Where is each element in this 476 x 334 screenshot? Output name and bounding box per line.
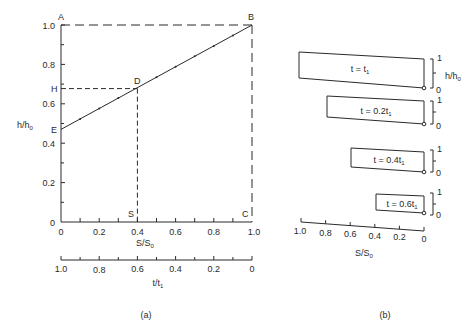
secondary-x-axis-label: t/t1 xyxy=(153,278,165,289)
point-label-d: D xyxy=(134,76,141,86)
profile-end-marker xyxy=(422,170,426,174)
scale-bottom-label: 0 xyxy=(436,168,441,178)
scale-bottom-label: 0 xyxy=(436,210,441,220)
scale-label: h/h0 xyxy=(445,71,462,82)
x-tick-label: 0 xyxy=(58,227,63,237)
panel-b-x-tick-label: 0.2 xyxy=(393,232,406,242)
x-tick-label: 0.4 xyxy=(131,227,144,237)
y-tick-label: 0 xyxy=(50,218,55,228)
profile-end-marker xyxy=(422,122,426,126)
secondary-x-tick-label: 0 xyxy=(249,264,254,274)
y-tick-label: 0.8 xyxy=(42,60,55,70)
scale-top-label: 1 xyxy=(437,187,442,197)
x-tick-label: 0.6 xyxy=(169,227,182,237)
scale-top-label: 1 xyxy=(437,95,442,105)
secondary-x-tick-label: 0.8 xyxy=(93,265,106,275)
x-axis-label: S/S0 xyxy=(136,238,155,249)
y-axis-label: h/h0 xyxy=(17,120,34,131)
x-axis-ticks xyxy=(80,218,233,222)
panel-b-x-tick-label: 0.4 xyxy=(369,231,382,241)
profile-label: t = t1 xyxy=(351,64,370,75)
scale-top-label: 1 xyxy=(437,53,442,63)
point-label-h: H xyxy=(51,84,58,94)
point-label-s: S xyxy=(128,209,134,219)
scale-bracket xyxy=(430,59,436,88)
profile-end-marker xyxy=(422,211,426,215)
profile-label: t = 0.4t1 xyxy=(373,155,405,166)
panel-b-x-tick-label: 1.0 xyxy=(294,226,307,236)
y-tick-label: 1.0 xyxy=(42,21,55,31)
point-label-b: B xyxy=(248,12,254,22)
panel-a xyxy=(61,25,252,260)
panel-b-x-tick-label: 0.8 xyxy=(319,228,332,238)
panel-a-text: 1.0 0.8 0.6 0.4 0.2 0 0 0.2 0.4 0.6 0.8 … xyxy=(17,12,260,320)
point-label-e: E xyxy=(51,125,57,135)
panel-b-text: t = t1 t = 0.2t1 t = 0.4t1 t = 0.6t1 1 0… xyxy=(294,53,462,320)
profile-end-marker xyxy=(422,86,426,90)
secondary-x-tick-label: 0.2 xyxy=(208,264,221,274)
scale-bottom-label: 0 xyxy=(436,121,441,131)
panel-b-x-axis-label: S/S0 xyxy=(355,248,374,259)
secondary-x-tick-label: 0.6 xyxy=(131,264,144,274)
secondary-x-tick-label: 0.4 xyxy=(169,264,182,274)
x-tick-label: 0.2 xyxy=(93,227,106,237)
y-tick-label: 0.6 xyxy=(42,99,55,109)
panel-b-x-tick-label: 0.6 xyxy=(344,229,357,239)
secondary-x-axis-ticks xyxy=(61,256,252,260)
y-axis-ticks xyxy=(61,25,65,202)
panel-b-caption: (b) xyxy=(380,310,391,320)
figure-canvas: 1.0 0.8 0.6 0.4 0.2 0 0 0.2 0.4 0.6 0.8 … xyxy=(0,0,476,334)
point-label-a: A xyxy=(58,12,64,22)
profile-label: t = 0.2t1 xyxy=(360,106,392,117)
point-label-c: C xyxy=(242,209,249,219)
scale-top-label: 1 xyxy=(437,144,442,154)
profile-label: t = 0.6t1 xyxy=(386,199,418,210)
panel-b-x-tick-label: 0 xyxy=(421,234,426,244)
scale-bottom-label: 0 xyxy=(436,85,441,95)
x-tick-label: 1.0 xyxy=(248,227,261,237)
panel-a-caption: (a) xyxy=(141,310,152,320)
secondary-x-tick-label: 1.0 xyxy=(55,264,68,274)
y-tick-label: 0.4 xyxy=(42,139,55,149)
x-tick-label: 0.8 xyxy=(208,227,221,237)
y-tick-label: 0.2 xyxy=(42,178,55,188)
